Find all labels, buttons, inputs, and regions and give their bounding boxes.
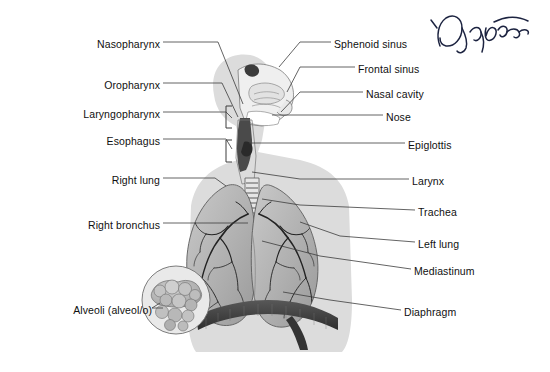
label-frontal-sinus: Frontal sinus xyxy=(358,64,419,75)
label-laryngopharynx: Laryngopharynx xyxy=(35,109,160,120)
label-sphenoid-sinus: Sphenoid sinus xyxy=(334,39,407,50)
label-alveoli: Alveoli (alveol/o) xyxy=(14,305,152,316)
label-mediastinum: Mediastinum xyxy=(414,266,475,277)
label-left-lung: Left lung xyxy=(418,239,459,250)
label-epiglottis: Epiglottis xyxy=(408,140,452,151)
handwritten-signature xyxy=(424,6,534,58)
label-oropharynx: Oropharynx xyxy=(60,80,160,91)
label-esophagus: Esophagus xyxy=(14,136,160,147)
label-nasopharynx: Nasopharynx xyxy=(60,39,160,50)
label-trachea: Trachea xyxy=(418,207,457,218)
label-right-lung: Right lung xyxy=(14,175,160,186)
alveoli-inset xyxy=(142,266,210,334)
respiratory-diagram: Nasopharynx Oropharynx Laryngopharynx Es… xyxy=(0,0,550,372)
label-nasal-cavity: Nasal cavity xyxy=(366,89,424,100)
label-diaphragm: Diaphragm xyxy=(404,307,456,318)
label-nose: Nose xyxy=(386,112,411,123)
label-right-bronchus: Right bronchus xyxy=(14,220,160,231)
label-larynx: Larynx xyxy=(412,176,444,187)
